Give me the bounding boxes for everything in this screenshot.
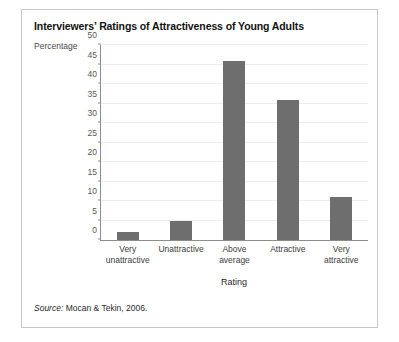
x-tick-label: Aboveaverage: [219, 244, 250, 265]
bar: [330, 197, 352, 240]
bar-group: Veryunattractive: [101, 45, 154, 240]
x-axis-title: Rating: [100, 277, 368, 287]
source-citation: Mocan & Tekin, 2006.: [63, 303, 147, 313]
y-tick-mark: [98, 161, 101, 162]
x-tick-label-line: Attractive: [270, 244, 305, 255]
y-tick-mark: [98, 180, 101, 181]
y-tick-label: 10: [88, 186, 97, 196]
bar-group: Attractive: [261, 45, 314, 240]
y-tick-mark: [98, 102, 101, 103]
bar: [170, 221, 192, 241]
y-tick-mark: [98, 44, 101, 45]
figure-title: Interviewers’ Ratings of Attractiveness …: [34, 20, 304, 32]
x-tick-label: Attractive: [270, 244, 305, 255]
chart-plot: Percentage VeryunattractiveUnattractiveA…: [34, 41, 368, 263]
y-tick-mark: [98, 239, 101, 240]
x-tick-label: Veryunattractive: [106, 244, 150, 265]
x-tick-label-line: Above: [219, 244, 250, 255]
y-tick-mark: [98, 219, 101, 220]
figure-card: Interviewers’ Ratings of Attractiveness …: [21, 9, 378, 328]
y-tick-label: 20: [88, 147, 97, 157]
y-tick-mark: [98, 141, 101, 142]
y-tick-mark: [98, 200, 101, 201]
y-tick-label: 0: [92, 225, 97, 235]
y-tick-mark: [98, 63, 101, 64]
source-note: Source: Mocan & Tekin, 2006.: [34, 303, 147, 313]
y-axis-title: Percentage: [34, 41, 77, 51]
plot-area: VeryunattractiveUnattractiveAboveaverage…: [100, 45, 368, 241]
y-tick-label: 50: [88, 30, 97, 40]
bar-group: Veryattractive: [315, 45, 368, 240]
x-tick-label-line: Very: [106, 244, 150, 255]
x-tick-label-line: Unattractive: [158, 244, 203, 255]
x-tick-label: Veryattractive: [324, 244, 359, 265]
x-tick-label: Unattractive: [158, 244, 203, 255]
y-tick-label: 30: [88, 108, 97, 118]
y-tick-label: 35: [88, 89, 97, 99]
y-tick-label: 15: [88, 167, 97, 177]
x-tick-label-line: attractive: [324, 255, 359, 266]
y-tick-label: 5: [92, 206, 97, 216]
x-tick-label-line: average: [219, 255, 250, 266]
y-tick-label: 45: [88, 50, 97, 60]
y-tick-label: 40: [88, 69, 97, 79]
bar-series: VeryunattractiveUnattractiveAboveaverage…: [101, 45, 368, 240]
y-tick-label: 25: [88, 128, 97, 138]
y-tick-mark: [98, 83, 101, 84]
bar: [277, 100, 299, 240]
bar-group: Unattractive: [154, 45, 207, 240]
source-label: Source:: [34, 303, 63, 313]
bar-group: Aboveaverage: [208, 45, 261, 240]
y-tick-mark: [98, 122, 101, 123]
x-tick-label-line: Very: [324, 244, 359, 255]
x-tick-label-line: unattractive: [106, 255, 150, 266]
bar: [117, 232, 139, 240]
bar: [223, 61, 245, 240]
